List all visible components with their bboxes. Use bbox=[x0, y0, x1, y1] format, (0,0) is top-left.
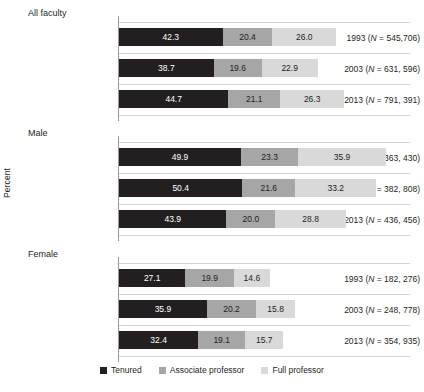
bar-segment: 42.3 bbox=[119, 28, 223, 46]
gridline bbox=[119, 294, 410, 295]
bar-segment: 15.7 bbox=[245, 331, 283, 349]
table-row: 43.920.028.8 bbox=[119, 210, 346, 228]
legend-label: Full professor bbox=[272, 365, 324, 375]
bar-value-label: 21.1 bbox=[246, 94, 263, 104]
bar-value-label: 19.6 bbox=[229, 63, 246, 73]
legend-item: Full professor bbox=[261, 365, 324, 375]
gridline bbox=[119, 235, 410, 236]
row-label: 2003 (N = 248, 778) bbox=[312, 305, 424, 315]
bar-segment: 21.6 bbox=[242, 179, 295, 197]
bar-segment: 19.9 bbox=[185, 269, 234, 287]
bar-segment: 20.0 bbox=[226, 210, 275, 228]
bar-value-label: 21.6 bbox=[260, 183, 277, 193]
plot-area: All faculty1993 (N = 545,706)42.320.426.… bbox=[0, 0, 424, 392]
bar-value-label: 20.4 bbox=[239, 32, 256, 42]
bar-segment: 14.6 bbox=[234, 269, 270, 287]
bar-value-label: 15.7 bbox=[256, 335, 273, 345]
bar-segment: 19.6 bbox=[214, 59, 262, 77]
legend-label: Associate professor bbox=[170, 365, 245, 375]
row-label: 2013 (N = 354, 935) bbox=[312, 336, 424, 346]
y-axis-line bbox=[118, 16, 119, 121]
stacked-bar-chart: Percent All faculty1993 (N = 545,706)42.… bbox=[0, 0, 424, 392]
gridline bbox=[119, 356, 410, 357]
group-header: Female bbox=[28, 249, 58, 259]
bar-value-label: 20.2 bbox=[223, 304, 240, 314]
bar-value-label: 44.7 bbox=[165, 94, 182, 104]
bar-value-label: 50.4 bbox=[172, 183, 189, 193]
bar-value-label: 26.0 bbox=[296, 32, 313, 42]
bar-segment: 33.2 bbox=[295, 179, 376, 197]
row-label: 2003 (N = 631, 596) bbox=[312, 64, 424, 74]
bar-value-label: 49.9 bbox=[172, 152, 189, 162]
bar-segment: 44.7 bbox=[119, 90, 228, 108]
gridline bbox=[119, 204, 410, 205]
bar-segment: 35.9 bbox=[119, 300, 207, 318]
bar-value-label: 33.2 bbox=[328, 183, 345, 193]
table-row: 49.923.335.9 bbox=[119, 148, 386, 166]
bar-segment: 20.2 bbox=[207, 300, 256, 318]
bar-segment: 43.9 bbox=[119, 210, 226, 228]
bar-segment: 23.3 bbox=[241, 148, 298, 166]
bar-segment: 35.9 bbox=[298, 148, 386, 166]
gridline bbox=[119, 22, 410, 23]
bar-segment: 32.4 bbox=[119, 331, 198, 349]
table-row: 27.119.914.6 bbox=[119, 269, 270, 287]
bar-value-label: 15.8 bbox=[267, 304, 284, 314]
bar-value-label: 35.9 bbox=[155, 304, 172, 314]
bar-segment: 26.3 bbox=[280, 90, 344, 108]
gridline bbox=[119, 325, 410, 326]
bar-segment: 19.1 bbox=[198, 331, 245, 349]
bar-segment: 21.1 bbox=[228, 90, 280, 108]
bar-value-label: 19.1 bbox=[213, 335, 230, 345]
bar-value-label: 20.0 bbox=[243, 214, 260, 224]
table-row: 38.719.622.9 bbox=[119, 59, 318, 77]
bar-value-label: 35.9 bbox=[334, 152, 351, 162]
bar-value-label: 42.3 bbox=[162, 32, 179, 42]
table-row: 32.419.115.7 bbox=[119, 331, 283, 349]
bar-segment: 26.0 bbox=[272, 28, 336, 46]
bar-segment: 27.1 bbox=[119, 269, 185, 287]
table-row: 50.421.633.2 bbox=[119, 179, 376, 197]
table-row: 44.721.126.3 bbox=[119, 90, 344, 108]
bar-value-label: 14.6 bbox=[244, 273, 261, 283]
bar-value-label: 28.8 bbox=[302, 214, 319, 224]
bar-value-label: 38.7 bbox=[158, 63, 175, 73]
bar-value-label: 32.4 bbox=[150, 335, 167, 345]
gridline bbox=[119, 173, 410, 174]
legend-item: Associate professor bbox=[159, 365, 245, 375]
gridline bbox=[119, 263, 410, 264]
legend-item: Tenured bbox=[100, 365, 142, 375]
bar-segment: 38.7 bbox=[119, 59, 214, 77]
gridline bbox=[119, 115, 410, 116]
gridline bbox=[119, 53, 410, 54]
chart-legend: TenuredAssociate professorFull professor bbox=[0, 365, 424, 375]
bar-segment: 22.9 bbox=[262, 59, 318, 77]
gridline bbox=[119, 142, 410, 143]
bar-value-label: 43.9 bbox=[164, 214, 181, 224]
y-axis-line bbox=[118, 136, 119, 241]
table-row: 42.320.426.0 bbox=[119, 28, 336, 46]
bar-segment: 50.4 bbox=[119, 179, 242, 197]
legend-label: Tenured bbox=[111, 365, 142, 375]
bar-segment: 20.4 bbox=[223, 28, 273, 46]
y-axis-line bbox=[118, 257, 119, 362]
legend-swatch-icon bbox=[100, 367, 107, 374]
bar-segment: 49.9 bbox=[119, 148, 241, 166]
bar-value-label: 27.1 bbox=[144, 273, 161, 283]
bar-value-label: 26.3 bbox=[304, 94, 321, 104]
bar-value-label: 19.9 bbox=[201, 273, 218, 283]
row-label: 1993 (N = 182, 276) bbox=[312, 274, 424, 284]
table-row: 35.920.215.8 bbox=[119, 300, 295, 318]
bar-segment: 28.8 bbox=[275, 210, 345, 228]
bar-value-label: 23.3 bbox=[261, 152, 278, 162]
gridline bbox=[119, 84, 410, 85]
bar-segment: 15.8 bbox=[256, 300, 295, 318]
legend-swatch-icon bbox=[261, 367, 268, 374]
group-header: Male bbox=[28, 128, 48, 138]
group-header: All faculty bbox=[28, 8, 67, 18]
legend-swatch-icon bbox=[159, 367, 166, 374]
bar-value-label: 22.9 bbox=[281, 63, 298, 73]
